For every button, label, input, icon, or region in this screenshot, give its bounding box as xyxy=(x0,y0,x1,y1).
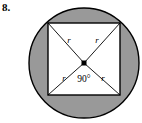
center-point-marker xyxy=(82,61,87,66)
geometry-figure: r r r r 90° xyxy=(0,0,142,123)
figure-panel: 8. r r r r 90° xyxy=(0,0,142,123)
radius-label-bottom-right: r xyxy=(101,73,105,83)
angle-label: 90° xyxy=(77,74,91,84)
radius-label-top-left: r xyxy=(67,35,71,45)
inscribed-square xyxy=(48,23,120,95)
radius-label-top-right: r xyxy=(95,35,99,45)
radius-label-bottom-left: r xyxy=(62,73,66,83)
